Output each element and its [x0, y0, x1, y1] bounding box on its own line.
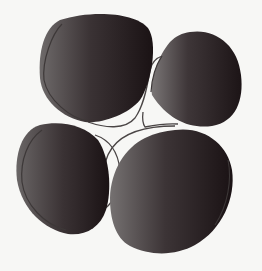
illustration-canvas: [0, 0, 262, 271]
pebble-bottom-left: [16, 123, 109, 234]
pebbles-illustration: [0, 0, 262, 271]
pebble-bottom-right: [110, 129, 233, 253]
pebble-top-left: [40, 14, 153, 122]
pebble-top-right: [151, 31, 242, 126]
